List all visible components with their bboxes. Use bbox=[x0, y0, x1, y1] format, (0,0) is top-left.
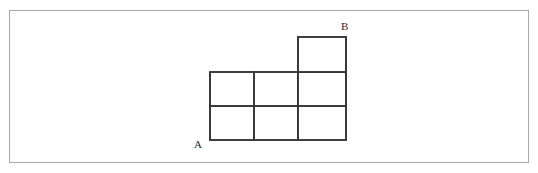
cell-r3-c3 bbox=[298, 37, 346, 72]
cell-r1-c1 bbox=[210, 106, 254, 140]
figure-canvas: A B bbox=[0, 0, 538, 173]
cell-r1-c3 bbox=[298, 106, 346, 140]
cell-r2-c3 bbox=[298, 72, 346, 106]
cell-r1-c2 bbox=[254, 106, 298, 140]
cell-r2-c2 bbox=[254, 72, 298, 106]
lattice-grid-svg bbox=[0, 0, 538, 173]
vertex-label-a: A bbox=[194, 139, 202, 150]
grid-cells bbox=[210, 37, 346, 140]
vertex-label-b: B bbox=[341, 21, 348, 32]
cell-r2-c1 bbox=[210, 72, 254, 106]
lattice-grid-figure bbox=[0, 0, 538, 173]
